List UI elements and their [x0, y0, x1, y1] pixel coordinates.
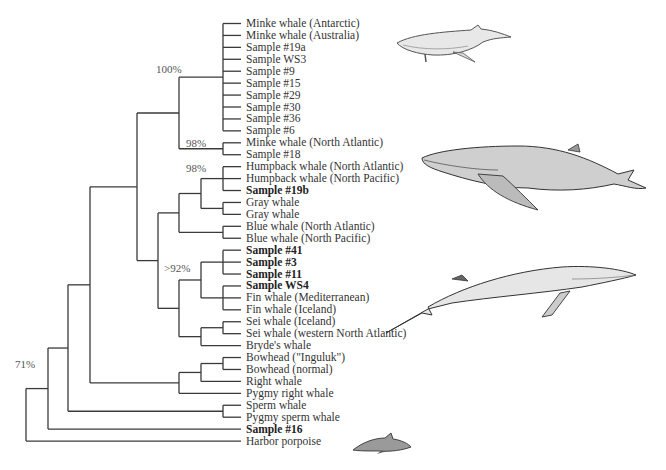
leaf-label: Sperm whale	[246, 399, 306, 411]
leaf-label: Sei whale (Iceland)	[246, 315, 335, 327]
leaf-label: Sample #15	[246, 77, 301, 89]
leaf-label: Sample #18	[246, 148, 301, 160]
support-value: 71%	[15, 358, 35, 370]
support-value: 98%	[186, 162, 206, 174]
fin-whale-illustration	[382, 245, 642, 340]
leaf-label: Fin whale (Iceland)	[246, 303, 336, 315]
leaf-label: Sample WS3	[246, 53, 306, 65]
leaf-label: Sample #19b	[246, 184, 309, 196]
leaf-label: Bowhead (normal)	[246, 363, 333, 375]
leaf-label: Sample #3	[246, 256, 297, 268]
leaf-label: Gray whale	[246, 208, 299, 220]
leaf-label: Harbor porpoise	[246, 435, 321, 447]
leaf-label: Minke whale (Antarctic)	[246, 17, 360, 29]
leaf-label: Pygmy sperm whale	[246, 411, 340, 423]
leaf-label: Right whale	[246, 375, 302, 387]
support-value: >92%	[164, 262, 190, 274]
support-value: 98%	[186, 137, 206, 149]
leaf-label: Fin whale (Mediterranean)	[246, 291, 369, 303]
leaf-label: Sample #16	[246, 423, 303, 435]
leaf-label: Minke whale (North Atlantic)	[246, 136, 383, 148]
leaf-label: Bryde's whale	[246, 339, 311, 351]
leaf-label: Sample #6	[246, 124, 295, 136]
leaf-label: Sample #30	[246, 101, 301, 113]
leaf-label: Sample #41	[246, 244, 303, 256]
harbor-porpoise-illustration	[351, 430, 413, 454]
humpback-whale-illustration	[418, 140, 658, 215]
leaf-label: Sample #11	[246, 268, 302, 280]
leaf-label: Humpback whale (North Atlantic)	[246, 160, 403, 172]
minke-whale-illustration	[393, 10, 513, 65]
leaf-label: Minke whale (Australia)	[246, 29, 359, 41]
leaf-label: Sample #19a	[246, 41, 306, 53]
leaf-label: Sample #36	[246, 112, 301, 124]
leaf-label: Sample WS4	[246, 279, 309, 291]
leaf-label: Gray whale	[246, 196, 299, 208]
leaf-label: Pygmy right whale	[246, 387, 334, 399]
leaf-label: Sample #29	[246, 89, 301, 101]
leaf-label: Sample #9	[246, 65, 295, 77]
leaf-label: Humpback whale (North Pacific)	[246, 172, 399, 184]
leaf-label: Bowhead ("Inguluk")	[246, 351, 345, 363]
leaf-label: Blue whale (North Pacific)	[246, 232, 370, 244]
support-value: 100%	[156, 63, 182, 75]
leaf-label: Blue whale (North Atlantic)	[246, 220, 375, 232]
